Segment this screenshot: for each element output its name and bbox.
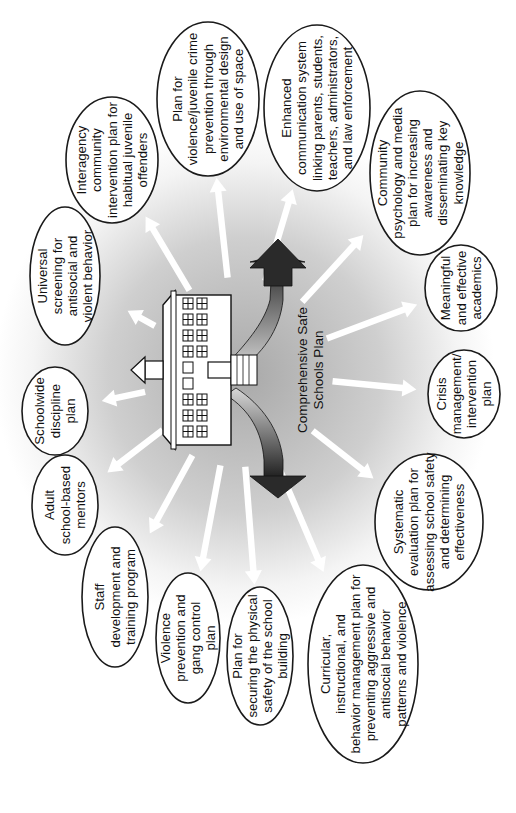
node-label-line: Violence — [158, 613, 173, 663]
node-label-line: knowledge — [451, 141, 466, 204]
node-label-line: management/ — [449, 353, 464, 434]
node-label-line: habitual juvenile — [120, 113, 135, 208]
node-label-line: Community — [375, 139, 390, 206]
node-label-line: and determining — [437, 475, 452, 570]
node-label-line: awareness and — [420, 128, 435, 217]
node-label-line: school-based — [58, 466, 73, 544]
node-label-line: community — [89, 128, 104, 192]
node-label-line: antisocial behavior — [378, 609, 393, 719]
node-label-line: Meaningful — [438, 256, 453, 321]
node-communication: Enhancedcommunication systemlinking pare… — [264, 25, 370, 191]
node-label-line: violent behavior — [80, 229, 95, 322]
window-icon — [183, 378, 193, 389]
node-label-line: plan for increasing — [405, 119, 420, 227]
node-label-line: Plan for — [230, 633, 245, 679]
node-label-line: plan — [203, 626, 218, 651]
node-label-line: gang control — [188, 602, 203, 675]
node-cpted: Plan forviolence/juvenile crimepreventio… — [157, 22, 259, 176]
node-curricular: Curricular,instructional, andbehavior ma… — [308, 565, 418, 763]
node-community-psychology: Communitypsychology and mediaplan for in… — [370, 91, 470, 255]
node-label-line: Plan for — [170, 76, 185, 122]
center-label-line-2: Schools Plan — [311, 331, 326, 410]
node-label-line: psychology and media — [390, 107, 405, 239]
node-label-line: environmental design — [216, 36, 231, 161]
node-label-line: evaluation plan for — [406, 468, 421, 576]
node-label-line: Universal — [35, 248, 50, 303]
node-label-line: plan — [479, 382, 494, 407]
node-label-line: academics — [469, 256, 484, 319]
node-label-line: violence/juvenile crime — [185, 33, 200, 166]
node-crisis: Crisismanagement/interventionplan — [428, 350, 500, 438]
node-discipline: Schoolwidedisciplineplan — [22, 367, 88, 455]
node-label-line: assessing school safety — [422, 452, 437, 592]
node-staff-development: Staffdevelopment andtraining program — [82, 527, 148, 667]
node-mentors: Adultschool-basedmentors — [32, 455, 98, 555]
node-label-line: prevention through — [201, 44, 216, 154]
node-label-line: Staff — [92, 583, 107, 610]
node-label-line: discipline — [48, 384, 63, 438]
node-label-line: Systematic — [391, 489, 406, 554]
node-label-line: offenders — [135, 132, 150, 187]
node-label-line: development and — [108, 546, 123, 647]
center-label-line-1: Comprehensive Safe — [295, 307, 310, 433]
node-label-line: effectiveness — [452, 483, 467, 560]
diagram-canvas: Comprehensive Safe Schools Plan Plan for… — [0, 0, 516, 813]
node-label-line: and law enforcement — [340, 46, 355, 169]
safe-schools-diagram: Comprehensive Safe Schools Plan Plan for… — [0, 0, 516, 813]
node-label-line: patterns and violence — [394, 601, 409, 726]
node-academics: Meaningfuland effectiveacademics — [425, 245, 497, 331]
node-label-line: securing the physical — [245, 594, 260, 717]
node-label-line: teachers, administrators, — [325, 36, 340, 180]
node-screening: Universalscreening forantisocial andviol… — [30, 207, 100, 345]
node-label-line: and use of space — [231, 49, 246, 149]
node-label-line: Adult — [42, 490, 57, 520]
node-gang-control: Violenceprevention andgang controlplan — [156, 573, 220, 703]
node-label-line: intervention — [464, 360, 479, 428]
node-label-line: Curricular, — [318, 634, 333, 694]
node-label-line: building — [275, 633, 290, 678]
node-label-line: behavior management plan for — [348, 574, 363, 753]
node-label-line: screening for — [50, 237, 65, 314]
node-label-line: communication system — [294, 41, 309, 175]
node-label-line: mentors — [73, 481, 88, 529]
node-physical-safety: Plan forsecuring the physicalsafety of t… — [227, 587, 293, 725]
node-label-line: safety of the school — [260, 599, 275, 713]
node-label-line: Crisis — [434, 377, 449, 410]
window-icon — [183, 362, 193, 373]
node-interagency: Interagencycommunityintervention plan fo… — [66, 97, 158, 223]
node-label-line: Enhanced — [279, 78, 294, 137]
node-label-line: training program — [123, 549, 138, 645]
node-label-line: Interagency — [74, 125, 89, 194]
node-label-line: disseminating key — [435, 120, 450, 225]
node-label-line: instructional, and — [333, 614, 348, 714]
node-label-line: linking parents, students, — [310, 35, 325, 181]
node-label-line: Schoolwide — [32, 377, 47, 444]
node-label-line: preventing aggressive and — [363, 587, 378, 742]
node-label-line: plan — [63, 399, 78, 424]
node-evaluation: Systematicevaluation plan forassessing s… — [375, 452, 483, 592]
node-label-line: antisocial and — [65, 236, 80, 317]
node-label-line: intervention plan for — [105, 101, 120, 217]
node-label-line: prevention and — [173, 594, 188, 681]
node-label-line: and effective — [454, 251, 469, 326]
